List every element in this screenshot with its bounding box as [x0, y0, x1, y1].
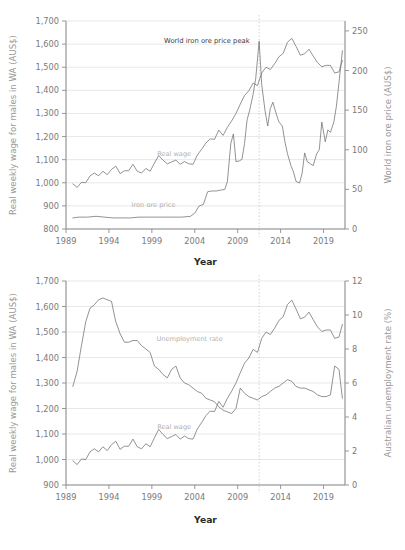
y-ticklabel-left: 1,100 [36, 155, 59, 165]
x-ticklabel: 2009 [227, 492, 248, 502]
y-ticklabel-right: 100 [352, 145, 368, 155]
y-ticklabel-right: 2 [352, 446, 357, 456]
x-ticklabel: 2009 [227, 236, 248, 246]
y-ticklabel-left: 1,500 [36, 62, 59, 72]
y-ticklabel-left: 800 [43, 224, 59, 234]
x-ticklabel: 1994 [99, 236, 120, 246]
series-line-real-wage [73, 38, 343, 187]
series-line-unemployment-rate [73, 298, 343, 414]
y-ticklabel-right: 150 [352, 105, 368, 115]
y-axis-title-right: Australian unemployment rate (%) [383, 308, 393, 457]
y-ticklabel-right: 250 [352, 26, 368, 36]
y-ticklabel-left: 900 [43, 201, 59, 211]
y-ticklabel-right: 12 [352, 276, 362, 286]
series-label-iron-ore-price: Iron ore price [132, 201, 176, 209]
y-ticklabel-left: 1,700 [36, 276, 59, 286]
y-ticklabel-left: 1,600 [36, 302, 59, 312]
x-ticklabel: 1989 [56, 492, 77, 502]
y-ticklabel-left: 900 [43, 480, 59, 490]
y-ticklabel-left: 1,200 [36, 132, 59, 142]
y-ticklabel-left: 1,100 [36, 429, 59, 439]
series-label-real-wage: Real wage [157, 150, 191, 158]
chart-panel-bottom: 9001,0001,1001,2001,3001,4001,5001,6001,… [0, 265, 405, 550]
x-ticklabel: 2004 [184, 236, 205, 246]
series-label-real-wage: Real wage [157, 423, 191, 431]
x-ticklabel: 1989 [56, 236, 77, 246]
y-ticklabel-left: 1,300 [36, 108, 59, 118]
y-ticklabel-right: 8 [352, 344, 357, 354]
y-ticklabel-left: 1,400 [36, 353, 59, 363]
x-ticklabel: 1994 [99, 492, 120, 502]
chart-bottom-svg: 9001,0001,1001,2001,3001,4001,5001,6001,… [0, 265, 405, 550]
y-axis-title-left: Real weekly wage for males in WA (AUS$) [8, 293, 18, 473]
y-ticklabel-right: 6 [352, 378, 357, 388]
y-ticklabel-left: 1,700 [36, 16, 59, 26]
y-ticklabel-right: 4 [352, 412, 357, 422]
series-label-unemployment-rate: Unemployment rate [157, 335, 223, 343]
series-line-iron-ore-price [73, 41, 343, 218]
y-ticklabel-right: 0 [352, 224, 357, 234]
y-ticklabel-right: 200 [352, 66, 368, 76]
y-axis-title-left: Real weekly wage for males in WA (AUS$) [8, 35, 18, 215]
x-ticklabel: 2019 [313, 492, 334, 502]
y-ticklabel-left: 1,500 [36, 327, 59, 337]
x-ticklabel: 2019 [313, 236, 334, 246]
y-ticklabel-right: 10 [352, 310, 362, 320]
figure-container: 8009001,0001,1001,2001,3001,4001,5001,60… [0, 0, 405, 550]
x-ticklabel: 2004 [184, 492, 205, 502]
chart-annotation: World iron ore price peak [164, 37, 250, 45]
y-ticklabel-left: 1,600 [36, 39, 59, 49]
y-ticklabel-left: 1,200 [36, 404, 59, 414]
y-ticklabel-left: 1,300 [36, 378, 59, 388]
chart-top-svg: 8009001,0001,1001,2001,3001,4001,5001,60… [0, 0, 405, 275]
y-ticklabel-right: 50 [352, 184, 362, 194]
y-ticklabel-left: 1,000 [36, 178, 59, 188]
y-ticklabel-right: 0 [352, 480, 357, 490]
y-ticklabel-left: 1,400 [36, 85, 59, 95]
y-axis-title-right: World iron ore price (AUS$) [383, 66, 393, 183]
x-axis-title: Year [193, 514, 217, 525]
x-ticklabel: 2014 [270, 236, 291, 246]
x-ticklabel: 1999 [141, 236, 162, 246]
x-ticklabel: 2014 [270, 492, 291, 502]
series-line-real-wage [73, 300, 343, 464]
chart-panel-top: 8009001,0001,1001,2001,3001,4001,5001,60… [0, 0, 405, 275]
x-ticklabel: 1999 [141, 492, 162, 502]
y-ticklabel-left: 1,000 [36, 455, 59, 465]
